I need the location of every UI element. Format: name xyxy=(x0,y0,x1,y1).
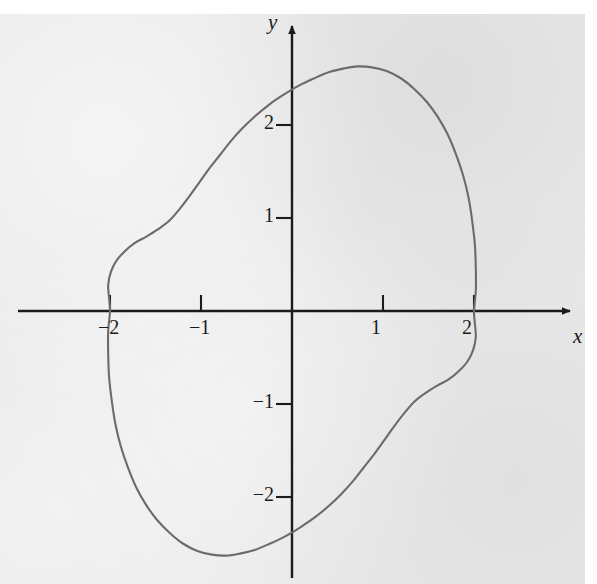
y-tick-label: 1 xyxy=(240,204,274,227)
x-tick-label: 2 xyxy=(462,316,472,339)
x-axis-label: x xyxy=(573,324,582,349)
y-tick-label: −1 xyxy=(240,390,274,413)
figure-container: x y −2−11221−1−2 xyxy=(0,0,597,584)
y-tick-label: 2 xyxy=(240,111,274,134)
y-axis-label: y xyxy=(268,10,277,35)
plot-canvas xyxy=(0,0,597,584)
x-tick-label: −1 xyxy=(189,316,210,339)
x-tick-label: 1 xyxy=(371,316,381,339)
y-tick-label: −2 xyxy=(240,483,274,506)
x-tick-label: −2 xyxy=(98,316,119,339)
